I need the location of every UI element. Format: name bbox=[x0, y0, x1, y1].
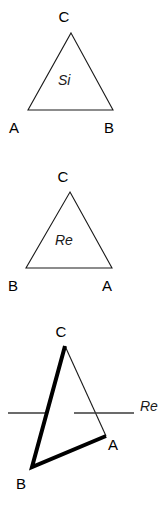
axis-label-re: Re bbox=[140, 398, 158, 414]
vertex-label-c-mapped: C bbox=[56, 323, 67, 340]
vertex-label-c-si: C bbox=[59, 8, 70, 25]
region-label-re: Re bbox=[55, 232, 73, 248]
panel-re: C B A Re bbox=[8, 168, 112, 294]
triangle-mapped-thick-edges bbox=[32, 346, 106, 467]
vertex-label-b-si: B bbox=[104, 119, 114, 136]
triangle-mapped-edge-ca bbox=[65, 346, 106, 436]
triangle-re-outline bbox=[26, 192, 112, 268]
vertex-label-a-mapped: A bbox=[108, 436, 118, 453]
figure-root: C A B Si C B A Re C B A Re bbox=[0, 0, 166, 507]
vertex-label-a-si: A bbox=[9, 119, 19, 136]
panel-mapped: C B A Re bbox=[8, 323, 158, 492]
vertex-label-b-re: B bbox=[8, 277, 18, 294]
vertex-label-c-re: C bbox=[58, 168, 69, 185]
triangle-si-outline bbox=[28, 33, 113, 110]
triangle-mapping-figure: C A B Si C B A Re C B A Re bbox=[0, 0, 166, 507]
vertex-label-a-re: A bbox=[102, 277, 112, 294]
region-label-si: Si bbox=[58, 72, 71, 88]
vertex-label-b-mapped: B bbox=[16, 475, 26, 492]
panel-si: C A B Si bbox=[9, 8, 114, 136]
